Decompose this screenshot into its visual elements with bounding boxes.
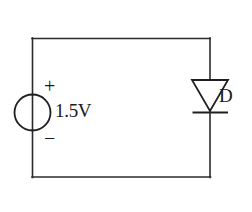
voltage-source-positive-terminal-label: + [44, 76, 55, 96]
voltage-source-negative-terminal-label: − [44, 128, 55, 148]
diode-reference-label: D [219, 86, 233, 105]
circuit-schematic [0, 0, 252, 212]
circuit-diagram-canvas: + − 1.5V D [0, 0, 252, 212]
voltage-source-value-label: 1.5V [55, 101, 91, 120]
